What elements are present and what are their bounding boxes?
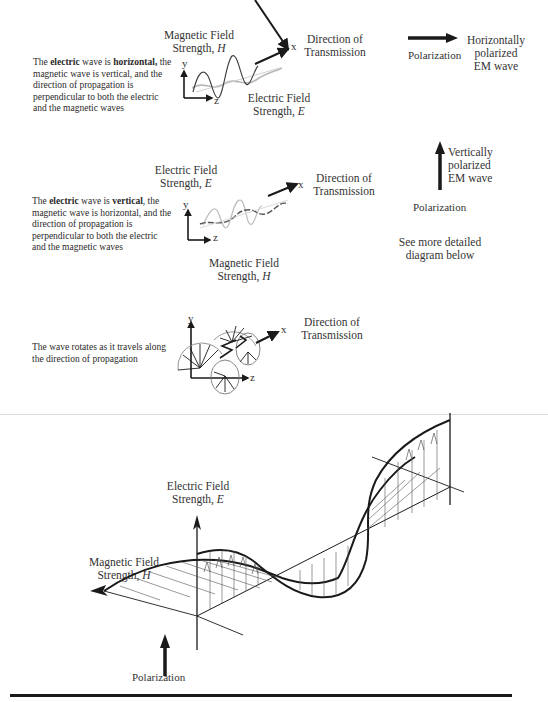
horizontal-polarization-arrow	[408, 33, 458, 43]
vertical-polarization-arrow	[435, 141, 445, 190]
section3-rotating-wave-diagram	[178, 322, 278, 394]
detailed-wave-diagram	[90, 413, 464, 676]
section2-wave-diagram	[188, 184, 297, 240]
section1-wave-diagram	[184, 0, 288, 98]
diagram-graphics	[0, 0, 548, 702]
